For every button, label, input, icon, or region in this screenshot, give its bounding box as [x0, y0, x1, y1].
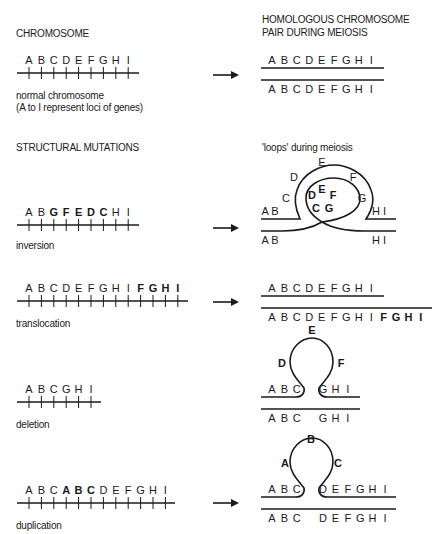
loop-gene: E: [308, 324, 315, 336]
gene-locus-label: A: [268, 483, 276, 495]
translocation-homologous-pair: ABCDEFGHI ABCDEFGHIFGHI: [261, 282, 432, 323]
gene-locus-label: G: [342, 54, 351, 66]
gene-locus-label: E: [75, 54, 82, 66]
gene-locus-label: C: [87, 484, 95, 496]
normal-gene-row: ABCDEFGHI: [25, 54, 129, 79]
deletion-loop-pair: D E F ABC GHI ABC GHI: [261, 324, 360, 424]
gene-locus-label: H: [112, 206, 120, 218]
gene-locus-label: H: [331, 412, 339, 424]
gene-locus-label: I: [370, 282, 373, 294]
gene-locus-label: D: [305, 282, 313, 294]
gene-locus-label: B: [38, 54, 45, 66]
gene-locus-label: G: [99, 282, 108, 294]
gene-locus-label: I: [127, 282, 130, 294]
gene-locus-label: H: [355, 83, 363, 95]
normal-homologous-pair: ABCDEFGHI ABCDEFGHI: [261, 54, 384, 95]
gene-locus-label: G: [62, 383, 71, 395]
gene-locus-label: G: [342, 83, 351, 95]
gene-locus-label: F: [331, 282, 338, 294]
inversion-loop-pair: A B H I A B H I C D E F G D E F C G: [261, 156, 396, 246]
gene-locus-label: E: [75, 206, 82, 218]
loop-gene-inverted: E: [318, 183, 325, 195]
heading-homologous-line2: PAIR DURING MEIOSIS: [262, 27, 368, 38]
heading-chromosome: CHROMOSOME: [16, 28, 90, 39]
gene-locus-label: C: [293, 282, 301, 294]
gene-locus-label: F: [344, 483, 351, 495]
gene-locus-label: C: [293, 54, 301, 66]
gene-locus-label: H: [112, 282, 120, 294]
gene-locus-label: B: [38, 282, 45, 294]
gene-locus-label: G: [136, 484, 145, 496]
gene-locus-label: A: [25, 54, 33, 66]
gene-locus-label: F: [344, 512, 351, 524]
gene-locus-label: G: [149, 282, 158, 294]
heading-structural-mutations: STRUCTURAL MUTATIONS: [16, 142, 140, 153]
loop-gene: F: [338, 357, 345, 369]
gene-locus-label: G: [342, 282, 351, 294]
gene-locus-label: A: [25, 383, 33, 395]
gene-locus-label: I: [164, 484, 167, 496]
gene-locus-label: B: [281, 83, 288, 95]
gene-locus-label: G: [99, 54, 108, 66]
gene-locus-label: E: [75, 282, 82, 294]
gene-locus-label: H: [149, 484, 157, 496]
gene-locus-label: C: [293, 412, 301, 424]
loop-gene-inverted: G: [325, 202, 334, 214]
gene-locus-label: F: [88, 54, 95, 66]
gene-locus-label: A: [25, 282, 33, 294]
gene-locus-label: A: [268, 83, 276, 95]
gene-locus-label: D: [62, 54, 70, 66]
gene-locus-label: I: [419, 311, 422, 323]
gene-locus-label: A: [268, 412, 276, 424]
gene-locus-label: H: [331, 383, 339, 395]
gene-locus-label: D: [62, 282, 70, 294]
gene-locus-label: I: [383, 483, 386, 495]
gene-locus-label: H: [369, 512, 377, 524]
gene-locus-label: I: [370, 54, 373, 66]
gene-locus-label: C: [293, 483, 301, 495]
inversion-chromosome: ABGFEDCHI inversion: [16, 206, 139, 251]
gene-locus-label: A: [25, 206, 33, 218]
gene-locus-label: B: [281, 282, 288, 294]
gene-locus-label: I: [127, 206, 130, 218]
gene-locus-label: F: [137, 282, 144, 294]
chromosome-mutations-diagram: CHROMOSOME HOMOLOGOUS CHROMOSOME PAIR DU…: [0, 0, 443, 534]
gene-locus-label: A: [268, 282, 276, 294]
gene-locus-label: F: [88, 282, 95, 294]
gene-locus-label: C: [50, 282, 58, 294]
gene-locus-label: B: [38, 206, 45, 218]
gene-locus-label: H: [369, 483, 377, 495]
gene-locus-label: I: [176, 282, 179, 294]
loop-gene: C: [282, 192, 290, 204]
gene-locus-label: G: [319, 383, 328, 395]
gene-locus-label: A: [25, 484, 33, 496]
gene-locus-label: A: [62, 484, 70, 496]
gene-locus-label: E: [318, 54, 325, 66]
loop-gene: B: [307, 433, 315, 445]
translocation-caption: translocation: [16, 318, 70, 329]
normal-caption-loci: (A to I represent loci of genes): [16, 102, 143, 113]
duplication-loop-pair: A B C ABC DEFGHI ABC DEFGHI: [261, 433, 396, 524]
loop-gene: G: [358, 192, 367, 204]
gene-locus-label: C: [293, 311, 301, 323]
gene-locus-label: D: [305, 54, 313, 66]
gene-locus-label: H: [355, 311, 363, 323]
gene-locus-label: G: [342, 311, 351, 323]
normal-caption: normal chromosome: [16, 90, 104, 101]
gene-locus-label: C: [99, 206, 107, 218]
gene-locus-label: I: [346, 383, 349, 395]
gene-locus-label: E: [112, 484, 119, 496]
gene-locus-label: F: [125, 484, 132, 496]
translocation-chromosome: ABCDEFGHIFGHI translocation: [16, 282, 188, 329]
gene-locus-label: H: [404, 311, 412, 323]
gene-locus-label: G: [392, 311, 401, 323]
gene-locus-label: A: [268, 54, 276, 66]
gene-locus-label: I: [127, 54, 130, 66]
gene-locus-label: I: [383, 512, 386, 524]
loop-gene: E: [318, 156, 325, 168]
gene-locus-label: F: [63, 206, 70, 218]
heading-homologous-line1: HOMOLOGOUS CHROMOSOME: [262, 14, 410, 25]
gene-locus-label: B: [281, 512, 288, 524]
inversion-caption: inversion: [16, 240, 54, 251]
gene-locus-label: E: [332, 483, 339, 495]
